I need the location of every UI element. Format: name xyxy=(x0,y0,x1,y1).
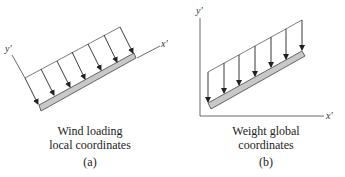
panel-b-caption-line2: coordinates xyxy=(211,138,321,152)
arrow-icon xyxy=(25,78,38,104)
panel-b-diagram: y' x' xyxy=(195,5,333,121)
panel-a-caption-line1: Wind loading xyxy=(35,124,145,138)
panel-a-caption: Wind loading local coordinates (a) xyxy=(35,124,145,169)
arrow-icon xyxy=(57,61,70,87)
arrow-icon xyxy=(120,27,133,53)
panel-b-y-axis-label: y' xyxy=(195,5,203,16)
arrow-icon xyxy=(88,44,101,70)
panel-b-caption-line1: Weight global xyxy=(211,124,321,138)
panel-a-tag: (a) xyxy=(35,155,145,169)
panel-b-caption: Weight global coordinates (b) xyxy=(211,124,321,169)
arrow-icon xyxy=(41,69,54,95)
panel-b-tag: (b) xyxy=(211,155,321,169)
panel-a-y-axis-label: y' xyxy=(4,43,12,54)
panel-b-member xyxy=(208,51,305,109)
panel-a-y-axis xyxy=(12,55,25,78)
panel-b-x-axis-label: x' xyxy=(325,110,333,121)
panel-a-caption-line2: local coordinates xyxy=(35,138,145,152)
panel-a-member xyxy=(39,53,136,111)
panel-a-diagram: y' x' xyxy=(4,27,168,111)
arrow-icon xyxy=(72,52,85,79)
arrow-icon xyxy=(104,35,117,62)
panel-a-x-axis-label: x' xyxy=(160,38,168,49)
panel-a-x-axis xyxy=(137,46,160,58)
